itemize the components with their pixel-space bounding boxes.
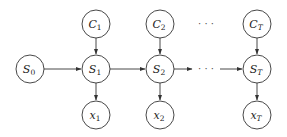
node-x1: x1 [82,101,110,129]
node-s0: S0 [16,55,44,83]
node-x2: x2 [146,101,174,129]
node-s1: S1 [82,55,110,83]
ellipsis-middle: · · · [198,63,214,74]
node-ct: CT [243,10,271,38]
node-s2: S2 [146,55,174,83]
node-st: ST [243,55,271,83]
node-xt: xT [243,101,271,129]
hmm-diagram: · · · · · · S0C1S1x1C2S2x2CTSTxT [0,0,287,137]
ellipsis-top: · · · [198,18,214,29]
node-c2: C2 [146,10,174,38]
node-c1: C1 [82,10,110,38]
